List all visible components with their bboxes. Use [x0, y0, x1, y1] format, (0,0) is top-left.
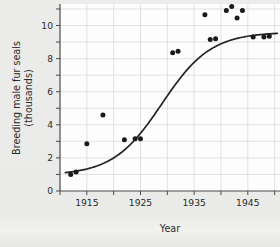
data-point	[170, 50, 175, 55]
scatter-plot-chart: 1915192519351945 0246810 Year Breeding m…	[0, 0, 280, 247]
data-point	[251, 35, 256, 40]
data-point	[202, 12, 207, 17]
data-point	[74, 169, 79, 174]
plot-area-background	[60, 4, 280, 191]
data-point	[133, 136, 138, 141]
x-axis-tick-label: 1935	[182, 197, 206, 208]
y-axis-tick-label: 2	[47, 152, 53, 163]
data-point	[229, 4, 234, 9]
data-point	[68, 172, 73, 177]
data-point	[100, 112, 105, 117]
data-point	[267, 34, 272, 39]
y-axis-tick-label: 10	[41, 20, 53, 31]
data-point	[261, 35, 266, 40]
x-axis-tick-labels: 1915192519351945	[75, 197, 260, 208]
data-point	[122, 137, 127, 142]
y-axis-tick-labels: 0246810	[41, 20, 53, 196]
x-axis-tick-label: 1945	[236, 197, 260, 208]
y-axis-tick-label: 8	[47, 53, 53, 64]
data-point	[138, 136, 143, 141]
data-point	[84, 141, 89, 146]
data-point	[176, 49, 181, 54]
figure-container: 1915192519351945 0246810 Year Breeding m…	[0, 0, 280, 247]
data-point	[224, 8, 229, 13]
data-point	[240, 8, 245, 13]
y-axis-tick-label: 0	[47, 185, 53, 196]
y-axis-tick-label: 6	[47, 86, 53, 97]
y-axis-tick-label: 4	[47, 119, 53, 130]
x-axis-title: Year	[159, 223, 180, 234]
x-axis-tick-label: 1925	[129, 197, 153, 208]
data-point	[235, 16, 240, 21]
x-axis-tick-label: 1915	[75, 197, 99, 208]
y-axis-title-line1: Breeding male fur seals	[11, 41, 22, 155]
data-point	[213, 36, 218, 41]
y-axis-title-line2: (thousands)	[23, 69, 34, 126]
data-point	[208, 37, 213, 42]
